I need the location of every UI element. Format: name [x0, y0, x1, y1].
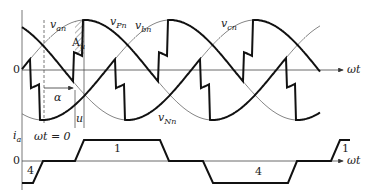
- segment-label-1a: 1: [114, 143, 121, 154]
- alpha-label: α: [54, 92, 61, 103]
- wt-zero-label: ωt = 0: [34, 131, 71, 142]
- bottom-origin-label: 0: [13, 155, 20, 166]
- overlap-label: u: [76, 113, 83, 124]
- current-axis-label: ia: [13, 130, 21, 144]
- top-axis-label: ωt: [347, 64, 360, 75]
- segment-label-1b: 1: [342, 143, 349, 154]
- bottom-axis-label: ωt: [347, 155, 360, 166]
- v-nn-curve: [22, 58, 320, 120]
- label-area-au: Au: [72, 37, 85, 51]
- label-v-nn: vNn: [158, 112, 176, 126]
- label-v-bn: vbn: [135, 20, 152, 34]
- label-v-an: van: [50, 19, 66, 33]
- top-origin-label: 0: [13, 64, 20, 75]
- label-v-pn: vPn: [110, 16, 127, 30]
- segment-label-4a: 4: [27, 165, 34, 176]
- phase-a-current: [22, 140, 350, 183]
- segment-label-4b: 4: [255, 166, 262, 177]
- label-v-cn: vcn: [221, 18, 237, 32]
